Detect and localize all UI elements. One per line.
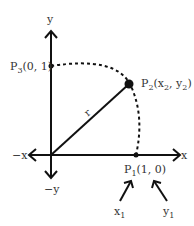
x-neg-label: −x — [12, 149, 28, 162]
radius-label: r — [82, 107, 93, 119]
y1-label: y1 — [162, 205, 174, 220]
y-pos-label: y — [46, 13, 54, 26]
dashed-arc — [51, 63, 139, 155]
arrow-x1 — [120, 181, 133, 201]
point-p2 — [125, 80, 134, 89]
p2-label: P2(x2, y2) — [141, 77, 192, 92]
p1-label: P1(1, 0) — [124, 163, 166, 178]
unit-circle-diagram: y x −x −y P3(0, 1) P2(x2, y2) P1(1, 0) r… — [0, 0, 194, 226]
x1-label: x1 — [114, 205, 125, 220]
radius-line — [51, 84, 129, 155]
y-neg-label: −y — [44, 183, 60, 196]
point-p1 — [134, 153, 139, 158]
x-pos-label: x — [181, 149, 188, 162]
p3-label: P3(0, 1) — [10, 60, 52, 75]
arrow-y1 — [152, 181, 167, 201]
diagram-canvas: y x −x −y P3(0, 1) P2(x2, y2) P1(1, 0) r… — [0, 0, 194, 226]
